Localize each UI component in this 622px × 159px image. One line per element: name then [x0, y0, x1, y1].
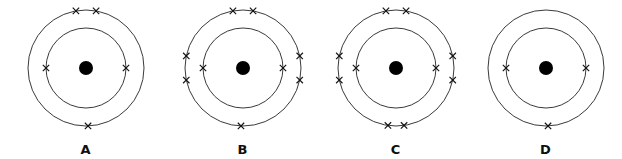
nucleus — [389, 61, 403, 75]
atom-model-c: C — [318, 0, 473, 159]
nucleus — [79, 61, 93, 75]
atom-label-c: C — [318, 143, 473, 157]
atom-model-d: D — [468, 0, 622, 159]
atom-shell-graphic — [165, 0, 320, 140]
atom-label-b: B — [165, 143, 320, 157]
atom-shell-graphic — [8, 0, 163, 140]
nucleus — [539, 61, 553, 75]
atom-shell-graphic — [318, 0, 473, 140]
atomic-models-diagram: ABCD — [0, 0, 622, 159]
nucleus — [236, 61, 250, 75]
atom-label-d: D — [468, 143, 622, 157]
atom-model-a: A — [8, 0, 163, 159]
atom-label-a: A — [8, 143, 163, 157]
atom-model-b: B — [165, 0, 320, 159]
atom-shell-graphic — [468, 0, 622, 140]
